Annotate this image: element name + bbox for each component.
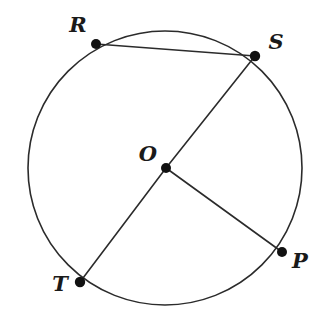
point-label-r: R	[68, 12, 86, 37]
point-label-o: O	[139, 141, 158, 166]
point-label-p: P	[291, 248, 309, 273]
point-s-dot	[250, 51, 260, 61]
point-p-dot	[277, 247, 287, 257]
circle-diagram-canvas: R S O P T	[0, 0, 328, 334]
point-o-dot	[161, 163, 171, 173]
point-label-s: S	[268, 29, 283, 54]
point-r-dot	[91, 39, 101, 49]
point-t-dot	[75, 277, 85, 287]
circle-diagram-figure: R S O P T	[0, 0, 328, 334]
point-label-t: T	[52, 271, 69, 296]
